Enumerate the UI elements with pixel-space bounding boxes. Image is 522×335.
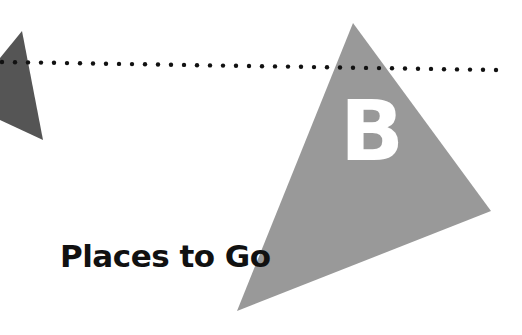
section-letter: B [340,90,396,172]
small-dark-triangle-shape [0,31,43,140]
decorative-artwork [0,0,522,335]
dotted-line [0,60,498,72]
section-title: Places to Go [60,238,271,274]
